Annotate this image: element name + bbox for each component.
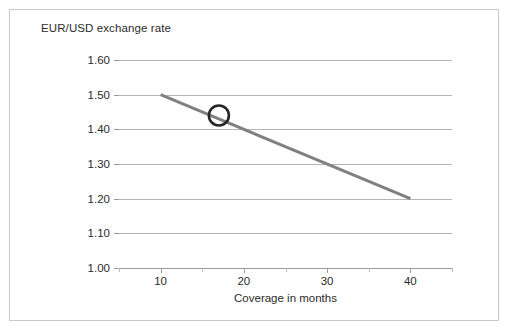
x-axis-label: Coverage in months [119, 292, 452, 304]
x-axis-tick-label: 30 [321, 275, 334, 287]
x-axis-tick-label: 20 [237, 275, 250, 287]
x-axis-tick-mark [161, 268, 162, 273]
x-axis-minor-tick-mark [286, 268, 287, 272]
data-line [161, 95, 411, 199]
series-layer [119, 60, 452, 268]
x-axis-tick-mark [410, 268, 411, 273]
x-axis-minor-tick-mark [369, 268, 370, 272]
y-axis-tick-label: 1.20 [88, 193, 110, 205]
y-axis-tick-label: 1.60 [88, 54, 110, 66]
x-axis-tick-label: 40 [404, 275, 417, 287]
x-axis-tick-mark [244, 268, 245, 273]
y-axis-tick-label: 1.40 [88, 123, 110, 135]
plot-area: 1.001.101.201.301.401.501.60 10203040 [119, 60, 452, 268]
x-axis-tick-label: 10 [154, 275, 167, 287]
x-axis-minor-tick-mark [452, 268, 453, 272]
figure-canvas: EUR/USD exchange rate 1.001.101.201.301.… [0, 0, 512, 331]
x-axis-minor-tick-mark [202, 268, 203, 272]
y-axis-tick-label: 1.30 [88, 158, 110, 170]
y-axis-tick-label: 1.00 [88, 262, 110, 274]
y-axis-tick-label: 1.10 [88, 227, 110, 239]
x-axis-tick-mark [327, 268, 328, 273]
chart-title: EUR/USD exchange rate [41, 22, 171, 34]
line-series-group [161, 95, 411, 199]
y-axis-tick-label: 1.50 [88, 89, 110, 101]
x-axis-minor-tick-mark [119, 268, 120, 272]
